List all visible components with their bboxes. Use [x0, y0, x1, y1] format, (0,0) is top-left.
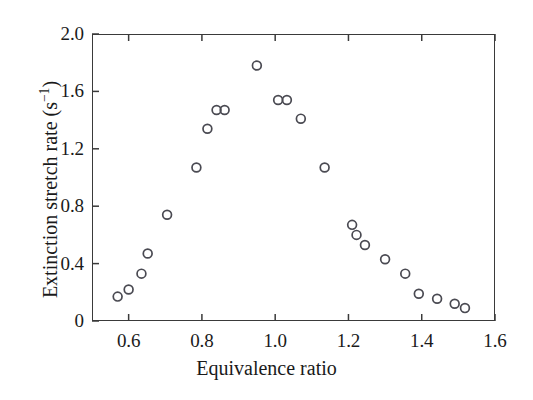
y-axis-title-superscript: −1 [37, 88, 52, 102]
x-tick-label: 0.8 [190, 330, 213, 352]
plot-frame [92, 34, 495, 321]
y-axis-title: Extinction stretch rate (s−1) [39, 40, 62, 340]
x-tick-label: 0.6 [117, 330, 140, 352]
y-axis-title-text: Extinction stretch rate (s [39, 102, 61, 298]
x-tick-label: 1.4 [410, 330, 433, 352]
x-tick-label: 1.0 [263, 330, 286, 352]
y-axis-title-tail: ) [39, 81, 61, 88]
x-tick-label: 1.6 [483, 330, 506, 352]
scatter-plot-figure: 0.60.81.01.21.41.6 00.40.81.21.62.0 Equi… [0, 0, 533, 400]
x-tick-label: 1.2 [337, 330, 360, 352]
x-axis-title: Equivalence ratio [0, 357, 533, 380]
